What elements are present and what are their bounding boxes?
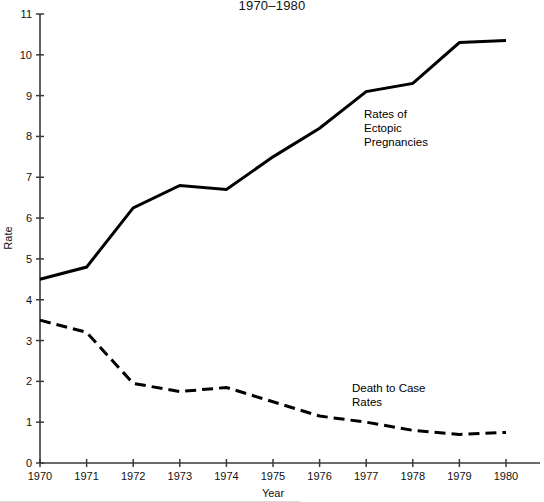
ectopic-label: Rates ofEctopicPregnancies [364, 108, 428, 148]
y-tick-label: 4 [26, 294, 32, 306]
data-series-line [40, 320, 506, 434]
y-tick-label: 10 [20, 49, 32, 61]
x-tick-label: 1979 [447, 470, 471, 482]
x-tick-label: 1976 [307, 470, 331, 482]
y-tick-label: 2 [26, 375, 32, 387]
y-tick-label: 0 [26, 457, 32, 469]
x-tick-label: 1972 [121, 470, 145, 482]
x-tick-label: 1978 [401, 470, 425, 482]
data-series-line [40, 41, 506, 280]
y-tick-label: 8 [26, 130, 32, 142]
x-tick-label: 1977 [354, 470, 378, 482]
y-tick-label: 1 [26, 416, 32, 428]
x-tick-label: 1980 [494, 470, 518, 482]
y-tick-label: 5 [26, 253, 32, 265]
y-tick-label: 3 [26, 335, 32, 347]
y-tick-label: 7 [26, 171, 32, 183]
y-tick-label: 11 [21, 8, 32, 20]
x-tick-label: 1971 [74, 470, 98, 482]
x-tick-label: 1973 [168, 470, 192, 482]
x-tick-label: 1970 [28, 470, 52, 482]
chart-figure: 1970–1980 012345678910111970197119721973… [0, 0, 544, 502]
x-tick-label: 1974 [214, 470, 238, 482]
y-axis-title: Rate [2, 226, 14, 249]
y-tick-label: 9 [26, 90, 32, 102]
chart-plot-area: 0123456789101119701971197219731974197519… [0, 0, 544, 502]
x-tick-label: 1975 [261, 470, 285, 482]
y-tick-label: 6 [26, 212, 32, 224]
death-to-case-label: Death to CaseRates [352, 382, 426, 408]
x-axis-title: Year [262, 487, 285, 499]
